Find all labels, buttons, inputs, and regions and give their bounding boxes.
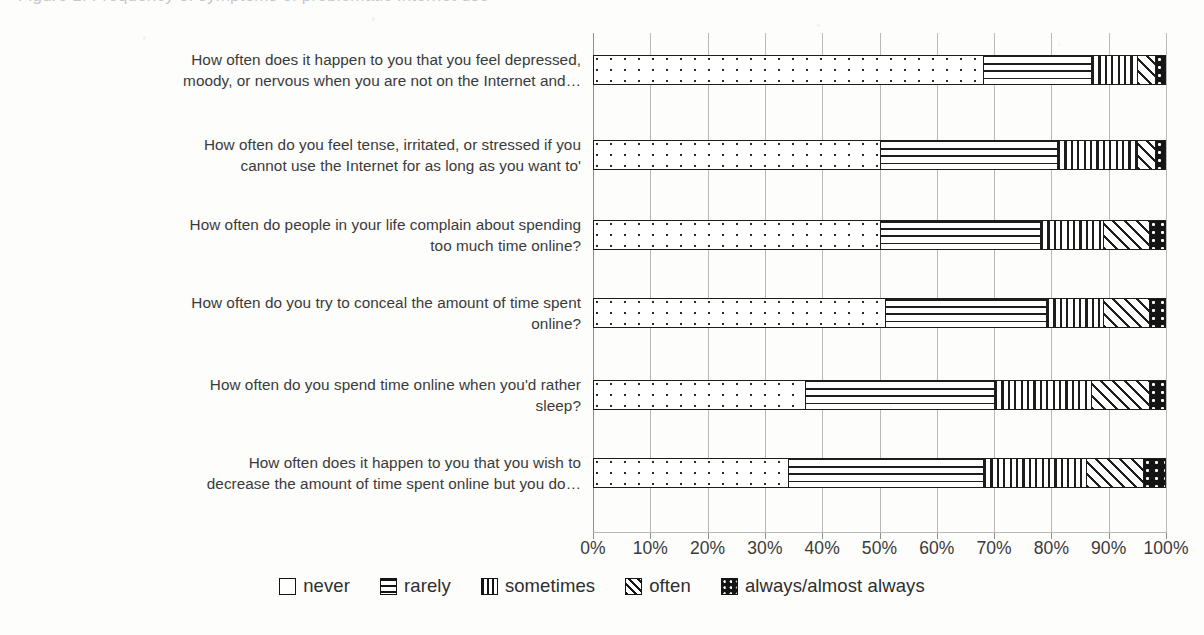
legend-item-rarely[interactable]: rarely (380, 575, 451, 597)
bar-segment-always-almost-always (1143, 458, 1166, 488)
bar-segment-rarely (885, 298, 1045, 328)
bar-segment-often (1137, 140, 1154, 170)
figure-caption-cutoff: Figure 1. Frequency of symptoms of probl… (0, 0, 1204, 26)
legend-label: never (303, 575, 350, 597)
x-tick-label: 60% (919, 538, 954, 559)
category-label: How often does it happen to you that you… (21, 49, 581, 91)
legend-item-always-almost-always[interactable]: always/almost always (721, 575, 925, 597)
bar-row (593, 220, 1166, 250)
legend-swatch-icon (481, 578, 498, 595)
bar-segment-rarely (805, 380, 994, 410)
category-label: How often does it happen to you that you… (21, 452, 581, 494)
bar-segment-never (593, 220, 880, 250)
bar-segment-never (593, 458, 788, 488)
category-label-line: decrease the amount of time spent online… (21, 473, 581, 494)
stacked-bar-chart: Figure 1. Frequency of symptoms of probl… (0, 0, 1204, 635)
bar-segment-rarely (983, 55, 1092, 85)
x-tick-label: 0% (580, 538, 606, 559)
category-label-line: moody, or nervous when you are not on th… (21, 70, 581, 91)
bar-segment-often (1086, 458, 1143, 488)
category-label: How often do you feel tense, irritated, … (21, 134, 581, 176)
legend-label: sometimes (505, 575, 595, 597)
bar-segment-often (1103, 220, 1149, 250)
x-tick-label: 100% (1143, 538, 1188, 559)
category-label: How often do people in your life complai… (21, 214, 581, 256)
x-tick-label: 20% (690, 538, 725, 559)
gridline-100 (1166, 33, 1167, 533)
bar-segment-rarely (788, 458, 983, 488)
x-tick-label: 50% (862, 538, 897, 559)
bar-segment-often (1103, 298, 1149, 328)
x-axis-tick-labels: 0%10%20%30%40%50%60%70%80%90%100% (593, 538, 1166, 568)
bar-segment-sometimes (1040, 220, 1103, 250)
bar-segment-often (1137, 55, 1154, 85)
legend-swatch-icon (721, 578, 738, 595)
category-label-line: online? (21, 313, 581, 334)
axis-baseline (593, 532, 1166, 533)
bar-segment-never (593, 55, 983, 85)
bar-row (593, 140, 1166, 170)
legend-item-often[interactable]: often (625, 575, 691, 597)
category-label-line: How often do people in your life complai… (21, 214, 581, 235)
bar-segment-always-almost-always (1149, 298, 1166, 328)
legend-swatch-icon (625, 578, 642, 595)
bar-segment-rarely (880, 220, 1040, 250)
category-label-line: How often does it happen to you that you… (21, 49, 581, 70)
chart-legend: neverrarelysometimesoftenalways/almost a… (0, 575, 1204, 597)
legend-label: often (649, 575, 691, 597)
category-label: How often do you spend time online when … (21, 374, 581, 416)
bar-row (593, 298, 1166, 328)
bar-segment-sometimes (983, 458, 1086, 488)
bar-row (593, 55, 1166, 85)
bar-row (593, 458, 1166, 488)
bar-segment-always-almost-always (1155, 140, 1166, 170)
bar-segment-always-almost-always (1155, 55, 1166, 85)
bar-segment-always-almost-always (1149, 380, 1166, 410)
category-label-line: sleep? (21, 395, 581, 416)
bar-segment-sometimes (994, 380, 1091, 410)
bar-segment-sometimes (1046, 298, 1103, 328)
bar-segment-never (593, 298, 885, 328)
category-label-line: How often do you try to conceal the amou… (21, 292, 581, 313)
category-label-line: How often do you spend time online when … (21, 374, 581, 395)
legend-label: always/almost always (745, 575, 925, 597)
bar-segment-never (593, 140, 880, 170)
x-tick-label: 40% (805, 538, 840, 559)
x-tick-label: 80% (1034, 538, 1069, 559)
x-tick-label: 90% (1091, 538, 1126, 559)
legend-swatch-icon (380, 578, 397, 595)
plot-area (593, 33, 1166, 533)
bar-segment-sometimes (1057, 140, 1137, 170)
bar-segment-never (593, 380, 805, 410)
category-label-line: How often do you feel tense, irritated, … (21, 134, 581, 155)
bar-segment-always-almost-always (1149, 220, 1166, 250)
legend-item-never[interactable]: never (279, 575, 350, 597)
category-label-line: How often does it happen to you that you… (21, 452, 581, 473)
bar-segment-rarely (880, 140, 1058, 170)
bar-segment-sometimes (1091, 55, 1137, 85)
category-label-line: too much time online? (21, 235, 581, 256)
category-label-line: cannot use the Internet for as long as y… (21, 155, 581, 176)
category-label: How often do you try to conceal the amou… (21, 292, 581, 334)
x-tick-label: 30% (747, 538, 782, 559)
legend-item-sometimes[interactable]: sometimes (481, 575, 595, 597)
figure-caption-text: Figure 1. Frequency of symptoms of probl… (18, 0, 1204, 4)
bar-segment-often (1091, 380, 1148, 410)
x-tick-label: 70% (976, 538, 1011, 559)
legend-label: rarely (404, 575, 451, 597)
x-tick-label: 10% (633, 538, 668, 559)
bar-row (593, 380, 1166, 410)
legend-swatch-icon (279, 578, 296, 595)
